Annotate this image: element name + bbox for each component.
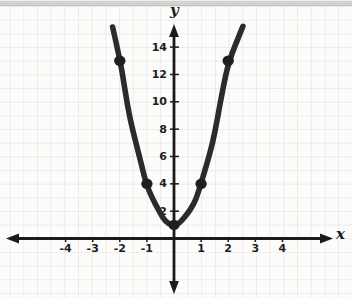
y-axis-arrow-up-icon [169, 24, 179, 37]
data-point-dot [168, 220, 179, 230]
x-axis-arrow-left-icon [6, 234, 19, 244]
y-tick-label: 8 [159, 123, 167, 136]
y-axis-arrow-down-icon [169, 281, 179, 294]
x-axis-label: x [336, 227, 345, 242]
y-tick-label: 10 [152, 95, 168, 108]
x-axis-arrow-right-icon [320, 234, 333, 244]
y-tick-label: 4 [159, 177, 167, 190]
y-axis-label: y [170, 3, 179, 18]
data-point-dot [223, 56, 234, 66]
x-tick-label: 4 [279, 242, 287, 255]
x-tick-label: 1 [197, 242, 205, 255]
x-tick-label: -2 [114, 242, 126, 255]
data-point-dot [195, 179, 206, 189]
x-tick-label: -3 [87, 242, 99, 255]
y-tick-label: 6 [159, 150, 167, 163]
x-tick-label: 3 [251, 242, 259, 255]
data-point-dot [141, 179, 152, 189]
data-point-dot [114, 56, 125, 66]
y-tick-label: 14 [152, 41, 168, 54]
parabola-plot: -4-3-2-112342468101214 [0, 0, 352, 298]
graph-paper: -4-3-2-112342468101214 y x [0, 0, 352, 298]
x-tick-label: -4 [59, 242, 72, 255]
curve-path [113, 26, 243, 225]
x-tick-label: -1 [141, 242, 153, 255]
x-tick-label: 2 [224, 242, 232, 255]
y-tick-label: 12 [152, 68, 167, 81]
